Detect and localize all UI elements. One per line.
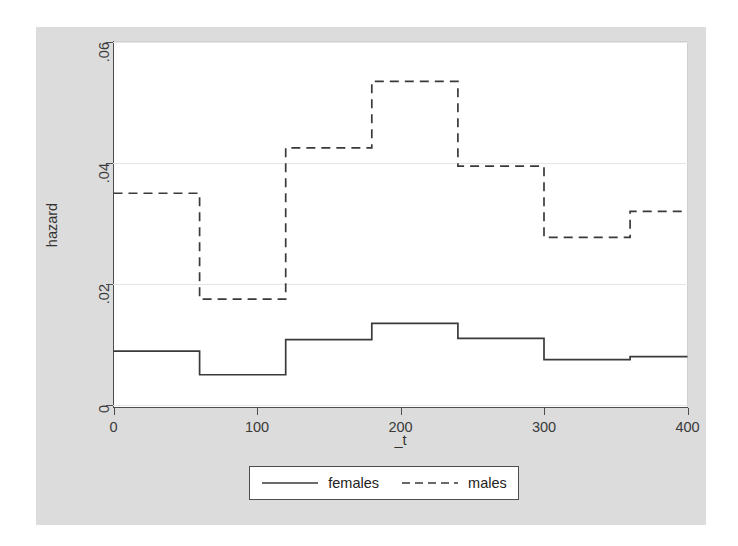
y-tick-label: 0 xyxy=(96,405,112,413)
y-tick-label: .06 xyxy=(96,42,112,62)
series-line-females xyxy=(114,323,688,374)
series-line-males xyxy=(114,81,688,299)
x-tick xyxy=(688,408,689,415)
legend-label-females: females xyxy=(328,475,379,491)
x-tick xyxy=(114,408,115,415)
y-axis-title-label: hazard xyxy=(44,202,60,246)
legend-label-males: males xyxy=(468,475,507,491)
y-tick-label: .02 xyxy=(96,284,112,304)
x-axis-title: _t xyxy=(113,432,688,448)
series-layer xyxy=(113,41,688,408)
figure-background: hazard 0.02.04.06 0100200300400 _t femal… xyxy=(36,27,706,525)
plot-area: 0.02.04.06 0100200300400 xyxy=(113,41,688,408)
x-tick xyxy=(257,408,258,415)
legend-key-solid-line-icon xyxy=(261,477,319,489)
legend: females males xyxy=(249,466,519,500)
legend-item-females[interactable]: females xyxy=(261,475,379,491)
y-axis-title: hazard xyxy=(42,41,62,408)
x-axis-title-label: _t xyxy=(394,432,406,448)
x-tick xyxy=(544,408,545,415)
x-tick xyxy=(401,408,402,415)
y-tick-label: .04 xyxy=(96,163,112,183)
legend-item-males[interactable]: males xyxy=(401,475,507,491)
legend-key-dashed-line-icon xyxy=(401,477,459,489)
